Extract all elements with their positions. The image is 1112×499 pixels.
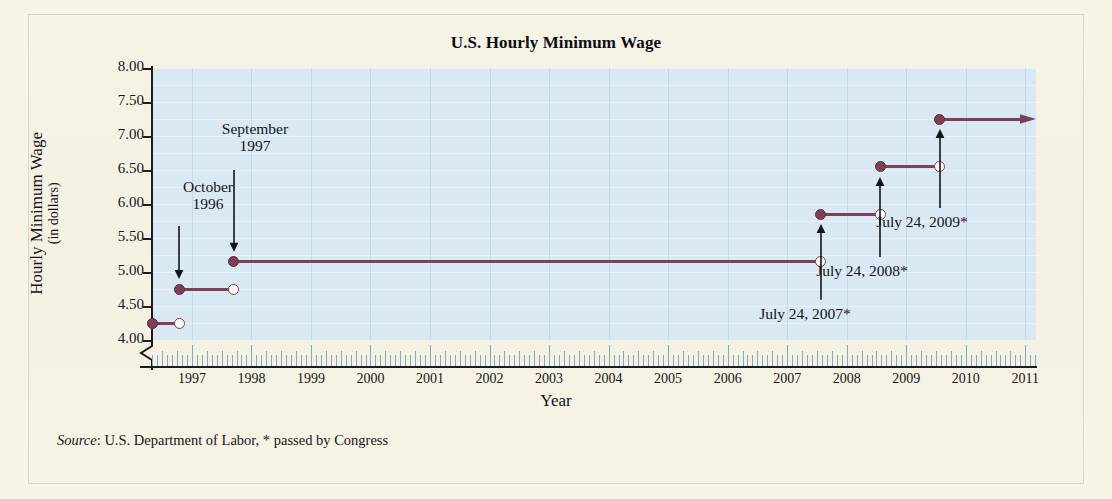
x-axis-minor-tick bbox=[222, 351, 223, 366]
x-axis-minor-tick bbox=[862, 351, 863, 366]
x-axis-minor-tick bbox=[638, 351, 639, 366]
x-axis-minor-tick bbox=[857, 355, 858, 366]
x-axis-minor-tick bbox=[916, 355, 917, 366]
vertical-gridline bbox=[1025, 68, 1026, 340]
x-axis-minor-tick bbox=[341, 351, 342, 366]
annotation-label-jul-2008: July 24, 2008* bbox=[772, 262, 952, 279]
x-axis-minor-tick bbox=[534, 351, 535, 366]
x-axis-minor-tick bbox=[281, 351, 282, 366]
x-axis-minor-tick bbox=[956, 355, 957, 366]
x-axis-tick-label: 2008 bbox=[817, 371, 877, 387]
x-axis-minor-tick bbox=[837, 355, 838, 366]
x-axis-minor-tick bbox=[430, 345, 431, 366]
closed-endpoint-dot bbox=[934, 114, 945, 125]
horizontal-gridline bbox=[152, 187, 1036, 188]
x-axis-minor-tick bbox=[509, 355, 510, 366]
x-axis-minor-tick bbox=[405, 355, 406, 366]
x-axis-minor-tick bbox=[961, 355, 962, 366]
x-axis-minor-tick bbox=[356, 351, 357, 366]
x-axis-minor-tick bbox=[331, 355, 332, 366]
x-axis-minor-tick bbox=[802, 351, 803, 366]
x-axis-tick-label: 1999 bbox=[281, 371, 341, 387]
x-axis-minor-tick bbox=[311, 345, 312, 366]
y-axis-tick-labels: 8.007.507.006.506.005.505.004.504.00 bbox=[88, 0, 144, 499]
y-axis-tick-label: 4.00 bbox=[88, 330, 144, 347]
x-axis-minor-tick bbox=[946, 355, 947, 366]
x-axis-minor-ticks bbox=[152, 341, 1036, 366]
x-axis-tick-label: 2002 bbox=[460, 371, 520, 387]
x-axis-minor-tick bbox=[197, 355, 198, 366]
x-axis-minor-tick bbox=[152, 355, 153, 366]
x-axis-minor-tick bbox=[316, 355, 317, 366]
x-axis-minor-tick bbox=[926, 355, 927, 366]
horizontal-gridline bbox=[152, 170, 1036, 171]
x-axis-minor-tick bbox=[881, 355, 882, 366]
x-axis-minor-tick bbox=[261, 355, 262, 366]
x-axis-minor-tick bbox=[465, 355, 466, 366]
closed-endpoint-dot bbox=[815, 209, 826, 220]
x-axis-minor-tick bbox=[787, 345, 788, 366]
x-axis-tick-label: 2009 bbox=[876, 371, 936, 387]
x-axis-minor-tick bbox=[643, 355, 644, 366]
x-axis-minor-tick bbox=[455, 355, 456, 366]
x-axis-minor-tick bbox=[202, 355, 203, 366]
annotation-arrow-icon-oct-1996 bbox=[173, 226, 185, 279]
y-axis-tick bbox=[143, 204, 152, 206]
x-axis-minor-tick bbox=[321, 355, 322, 366]
x-axis-minor-tick bbox=[271, 355, 272, 366]
x-axis-minor-tick bbox=[177, 351, 178, 366]
x-axis-minor-tick bbox=[351, 355, 352, 366]
x-axis-minor-tick bbox=[192, 345, 193, 366]
x-axis-minor-tick bbox=[633, 355, 634, 366]
annotation-label-oct-1996: October1996 bbox=[143, 178, 273, 213]
x-axis-minor-tick bbox=[981, 351, 982, 366]
horizontal-gridline bbox=[152, 102, 1036, 103]
x-axis-minor-tick bbox=[867, 355, 868, 366]
x-axis-minor-tick bbox=[420, 355, 421, 366]
x-axis-minor-tick bbox=[936, 351, 937, 366]
annotation-line: July 24, 2009* bbox=[832, 213, 1012, 230]
horizontal-gridline bbox=[152, 306, 1036, 307]
x-axis-minor-tick bbox=[480, 355, 481, 366]
x-axis-minor-tick bbox=[822, 355, 823, 366]
x-axis-minor-tick bbox=[718, 355, 719, 366]
x-axis-minor-tick bbox=[619, 355, 620, 366]
x-axis-minor-tick bbox=[941, 355, 942, 366]
x-axis-minor-tick bbox=[688, 355, 689, 366]
x-axis-minor-tick bbox=[797, 355, 798, 366]
x-axis-minor-tick bbox=[579, 351, 580, 366]
x-axis-minor-tick bbox=[738, 355, 739, 366]
x-axis-minor-tick bbox=[1000, 355, 1001, 366]
y-axis-tick bbox=[143, 340, 152, 342]
x-axis-minor-tick bbox=[346, 355, 347, 366]
x-axis-line bbox=[140, 366, 1037, 368]
annotation-line: October bbox=[143, 178, 273, 195]
x-axis-minor-tick bbox=[728, 345, 729, 366]
vertical-gridline bbox=[490, 68, 491, 340]
x-axis-minor-tick bbox=[757, 351, 758, 366]
chart-figure: U.S. Hourly Minimum Wage 8.007.507.006.5… bbox=[0, 0, 1112, 499]
x-axis-minor-tick bbox=[996, 351, 997, 366]
x-axis-minor-tick bbox=[782, 355, 783, 366]
vertical-gridline bbox=[549, 68, 550, 340]
y-axis-tick bbox=[143, 238, 152, 240]
x-axis-minor-tick bbox=[529, 355, 530, 366]
x-axis-minor-tick bbox=[366, 355, 367, 366]
annotation-arrow-icon-sep-1997 bbox=[228, 170, 240, 252]
x-axis-minor-tick bbox=[237, 351, 238, 366]
horizontal-gridline bbox=[152, 323, 1036, 324]
y-axis-tick bbox=[143, 272, 152, 274]
x-axis-minor-tick bbox=[212, 355, 213, 366]
x-axis-minor-tick bbox=[227, 355, 228, 366]
x-axis-tick-label: 2007 bbox=[757, 371, 817, 387]
y-axis-tick-label: 6.00 bbox=[88, 194, 144, 211]
x-axis-minor-tick bbox=[703, 355, 704, 366]
annotation-line: 1996 bbox=[143, 195, 273, 212]
x-axis-minor-tick bbox=[614, 355, 615, 366]
closed-endpoint-dot bbox=[875, 161, 886, 172]
x-axis-minor-tick bbox=[1030, 355, 1031, 366]
x-axis-tick-label: 2004 bbox=[579, 371, 639, 387]
x-axis-minor-tick bbox=[435, 355, 436, 366]
x-axis-minor-tick bbox=[708, 355, 709, 366]
y-axis-tick-label: 7.00 bbox=[88, 126, 144, 143]
